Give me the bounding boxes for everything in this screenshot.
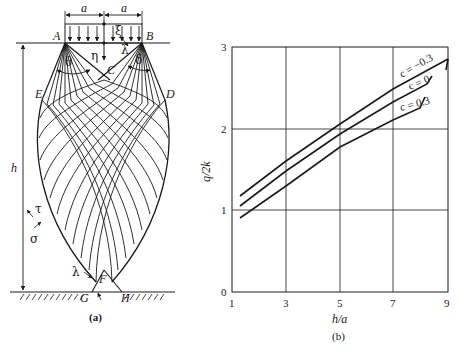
x-tick-9: 9 — [444, 297, 450, 309]
curve-c-0 — [240, 76, 432, 206]
height-label: h — [11, 161, 17, 175]
ground-hatching — [20, 294, 164, 300]
x-tick-1: 1 — [229, 297, 235, 309]
panel-a-caption: (a) — [89, 311, 102, 324]
y-tick-3: 3 — [221, 41, 227, 53]
point-B-label: B — [146, 29, 154, 43]
g-arrow — [98, 293, 101, 300]
sigma-arrow — [34, 222, 41, 228]
y-tick-1: 1 — [221, 204, 227, 216]
x-tick-3: 3 — [283, 297, 289, 309]
lambda-top-label: λ — [121, 43, 129, 57]
legend-c-neg-0.3: c = −0.3 — [397, 51, 435, 80]
eta-label: η — [91, 49, 98, 63]
panel-b-caption: (b) — [332, 330, 345, 343]
dimension-label-a-left: a — [81, 1, 87, 15]
y-tick-2: 2 — [221, 123, 227, 135]
x-tick-7: 7 — [390, 297, 396, 309]
tau-arrow — [27, 210, 33, 217]
point-A-label: A — [52, 29, 61, 43]
x-tick-5: 5 — [337, 297, 343, 309]
point-F-label: F — [98, 272, 107, 286]
dimension-label-a-right: a — [121, 1, 127, 15]
theta-label: θ — [65, 55, 72, 69]
xi-label: ξ — [115, 24, 122, 38]
point-G-label: G — [80, 291, 89, 305]
point-C-label: C — [107, 63, 116, 77]
sigma-label: σ — [30, 232, 38, 246]
tau-label: τ — [35, 202, 42, 216]
x-axis-label: h/a — [332, 312, 347, 326]
delta-label: δ — [135, 53, 142, 67]
curve-c-0.3 — [240, 97, 425, 218]
edge-AE — [42, 43, 65, 100]
figure: a a A B C D E F G H h θ δ η ξ λ λ τ σ (a… — [0, 0, 460, 355]
y-tick-0: 0 — [221, 286, 227, 298]
diagram-labels: a a A B C D E F G H h θ δ η ξ λ λ τ σ (a… — [11, 1, 175, 324]
y-axis-label: q/2k — [199, 161, 213, 182]
point-E-label: E — [34, 87, 43, 101]
chart: 3 2 1 0 1 3 5 7 9 h/a q/2k (b) c = −0.3 … — [199, 41, 450, 343]
point-D-label: D — [165, 87, 175, 101]
point-H-label: H — [120, 291, 131, 305]
edge-BD — [142, 43, 165, 100]
lambda-bottom-label: λ — [72, 265, 80, 279]
